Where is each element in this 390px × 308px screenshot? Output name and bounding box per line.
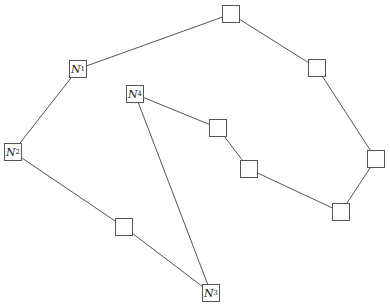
node-unlabeled bbox=[332, 203, 350, 221]
node-subscript: 1 bbox=[81, 66, 85, 73]
edge-n2-g bbox=[13, 152, 124, 227]
node-n4: N4 bbox=[126, 85, 144, 103]
edge-e-n4 bbox=[135, 94, 218, 128]
node-unlabeled bbox=[115, 218, 133, 236]
edge-d-f bbox=[249, 169, 341, 212]
node-n3: N3 bbox=[202, 284, 220, 302]
node-unlabeled bbox=[367, 150, 385, 168]
node-n1: N1 bbox=[69, 60, 87, 78]
node-n2: N2 bbox=[4, 143, 22, 161]
edge-a-b bbox=[231, 14, 317, 68]
node-unlabeled bbox=[308, 59, 326, 77]
node-subscript: 2 bbox=[16, 149, 20, 156]
node-unlabeled bbox=[240, 160, 258, 178]
node-label: N bbox=[204, 288, 214, 299]
node-label: N bbox=[128, 89, 138, 100]
edge-n4-n3 bbox=[135, 94, 211, 293]
node-unlabeled bbox=[209, 119, 227, 137]
node-subscript: 4 bbox=[138, 91, 142, 98]
edge-layer bbox=[0, 0, 390, 308]
edge-n1-a bbox=[78, 14, 231, 69]
node-unlabeled bbox=[222, 5, 240, 23]
edge-b-c bbox=[317, 68, 376, 159]
node-subscript: 3 bbox=[214, 290, 218, 297]
edge-n1-n2 bbox=[13, 69, 78, 152]
graph-diagram: N1N2N3N4 bbox=[0, 0, 390, 308]
node-label: N bbox=[6, 147, 16, 158]
node-label: N bbox=[71, 64, 81, 75]
